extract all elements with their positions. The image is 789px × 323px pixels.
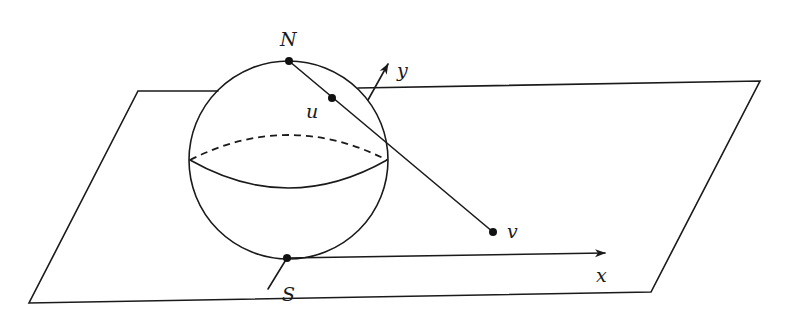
sphere-point-u xyxy=(328,94,336,102)
equator-back-arc xyxy=(190,135,387,160)
label-n: N xyxy=(279,28,298,50)
equator-front-arc xyxy=(190,160,387,188)
label-v: v xyxy=(507,220,518,242)
plane-left-edge xyxy=(29,81,760,303)
sphere xyxy=(189,61,388,259)
stereographic-projection-diagram: N u y v x S xyxy=(0,0,789,323)
x-axis-arrow xyxy=(287,253,605,258)
plane-point-v xyxy=(489,228,497,236)
label-u: u xyxy=(306,100,318,122)
label-y: y xyxy=(396,59,408,81)
label-s: S xyxy=(282,283,295,305)
north-pole-point xyxy=(285,57,293,65)
y-axis-arrow xyxy=(368,64,388,100)
label-x: x xyxy=(596,264,607,286)
plane xyxy=(29,81,760,303)
south-pole-point xyxy=(283,254,291,262)
sphere-outline xyxy=(189,61,388,259)
